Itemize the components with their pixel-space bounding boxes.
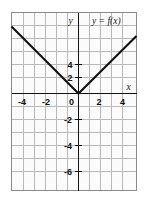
x-tick-label-origin: 0 — [69, 97, 74, 107]
y-tick-label-neg4: -4 — [64, 141, 72, 151]
y-axis-label: y — [67, 16, 73, 26]
y-tick-label-neg6: -6 — [64, 167, 72, 177]
x-tick-label-neg4: -4 — [18, 97, 26, 107]
curve-equation-label: y = f(x) — [91, 16, 121, 27]
x-tick-label-neg2: -2 — [42, 97, 50, 107]
y-tick-label-2: 2 — [67, 73, 72, 83]
coordinate-plane: y x y = f(x) -4 -2 0 2 4 4 2 -2 -4 -6 — [0, 0, 152, 201]
x-tick-label-4: 4 — [120, 97, 125, 107]
y-tick-label-4: 4 — [67, 60, 72, 70]
x-axis-label: x — [125, 82, 131, 92]
x-tick-label-2: 2 — [96, 97, 101, 107]
graph-figure: y x y = f(x) -4 -2 0 2 4 4 2 -2 -4 -6 — [0, 0, 152, 201]
y-tick-label-neg2: -2 — [64, 115, 72, 125]
